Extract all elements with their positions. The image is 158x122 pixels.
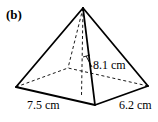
base-edge-right-label: 6.2 cm bbox=[119, 99, 152, 111]
part-label: (b) bbox=[6, 8, 22, 21]
height-line-dashed bbox=[82, 8, 84, 96]
pyramid-figure: (b) 8.1 cm 7.5 cm 6.2 cm bbox=[0, 0, 158, 122]
lateral-edge-apex-right bbox=[83, 8, 148, 86]
slant-height-label: 8.1 cm bbox=[93, 59, 126, 71]
base-edge-left-label: 7.5 cm bbox=[27, 99, 60, 111]
